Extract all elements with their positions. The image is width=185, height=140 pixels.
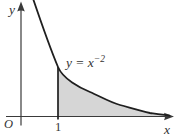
graph-canvas: y x O 1 y = x−2 <box>0 0 185 140</box>
equation-label: y = x−2 <box>64 54 105 71</box>
equation-exponent: −2 <box>94 54 105 64</box>
function-graph-figure: y x O 1 y = x−2 <box>0 0 185 140</box>
x-tick-label-1: 1 <box>55 120 61 134</box>
x-axis-label: x <box>163 122 170 137</box>
origin-label: O <box>4 117 13 131</box>
x-axis-arrow-icon <box>164 113 174 121</box>
shaded-area-under-curve <box>58 67 168 117</box>
y-axis-arrow-icon <box>17 2 25 12</box>
equation-base: y = x <box>64 55 94 70</box>
y-axis-label: y <box>7 2 15 17</box>
